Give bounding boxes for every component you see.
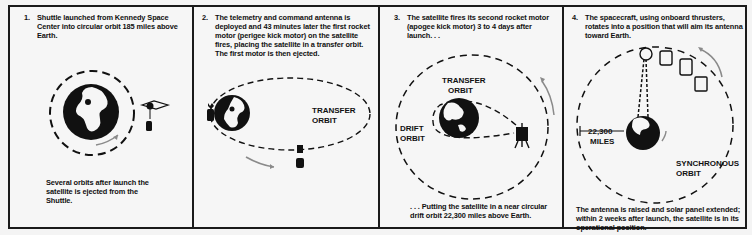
antenna-beam-icon bbox=[638, 59, 648, 117]
satellite-rotation-icons bbox=[640, 48, 707, 91]
earth-icon bbox=[439, 98, 479, 138]
panel-step-2: 2. The telemetry and command antenna is … bbox=[194, 7, 378, 227]
satellite-icon bbox=[207, 103, 214, 121]
synchronous-orbit-illustration: 22,300 MILES SYNCHRONOUS ORBIT bbox=[564, 7, 747, 227]
drift-orbit-illustration: TRANSFER ORBIT DRIFT ORBIT bbox=[380, 7, 562, 227]
caption-text: . . . Putting the satellite in a near ci… bbox=[410, 202, 547, 220]
earth-icon bbox=[63, 84, 119, 140]
satellite-icon bbox=[680, 59, 692, 75]
orbit-label: SYNCHRONOUS bbox=[676, 159, 740, 168]
direction-arrow-icon bbox=[662, 131, 666, 141]
orbit-label: ORBIT bbox=[448, 86, 473, 95]
orbit-label: TRANSFER bbox=[442, 76, 486, 85]
step-4-caption: The antenna is raised and solar panel ex… bbox=[576, 205, 742, 232]
satellite-icon bbox=[515, 123, 529, 148]
orbit-label: ORBIT bbox=[400, 134, 425, 143]
direction-arrow-icon bbox=[246, 157, 274, 167]
space-shuttle-icon bbox=[142, 101, 168, 119]
ejected-motor-icon bbox=[296, 145, 304, 168]
panel-step-1: 1. Shuttle launched from Kennedy Space C… bbox=[10, 7, 193, 227]
distance-label: MILES bbox=[590, 137, 615, 146]
panel-step-4: 4. The spacecraft, using onboard thruste… bbox=[564, 7, 747, 227]
orbit-label: TRANSFER bbox=[312, 106, 356, 115]
step-1-caption: Several orbits after launch the satellit… bbox=[46, 178, 166, 205]
transfer-orbit-illustration: TRANSFER ORBIT bbox=[194, 7, 378, 227]
satellite-icon bbox=[146, 121, 152, 131]
distance-label: 22,300 bbox=[588, 127, 613, 136]
earth-icon bbox=[626, 116, 660, 150]
satellite-icon bbox=[695, 77, 707, 91]
diagram-frame: 1. Shuttle launched from Kennedy Space C… bbox=[8, 5, 747, 229]
orbit-label: ORBIT bbox=[676, 169, 701, 178]
satellite-icon bbox=[640, 48, 652, 60]
satellite-icon bbox=[660, 51, 672, 65]
orbit-label: ORBIT bbox=[312, 116, 337, 125]
panel-step-3: 3. The satellite fires its second rocket… bbox=[380, 7, 562, 227]
direction-arrow-icon bbox=[542, 81, 554, 115]
earth-icon bbox=[214, 95, 250, 131]
orbit-label: DRIFT bbox=[400, 124, 424, 133]
step-3-caption: . . . Putting the satellite in a near ci… bbox=[410, 202, 550, 220]
